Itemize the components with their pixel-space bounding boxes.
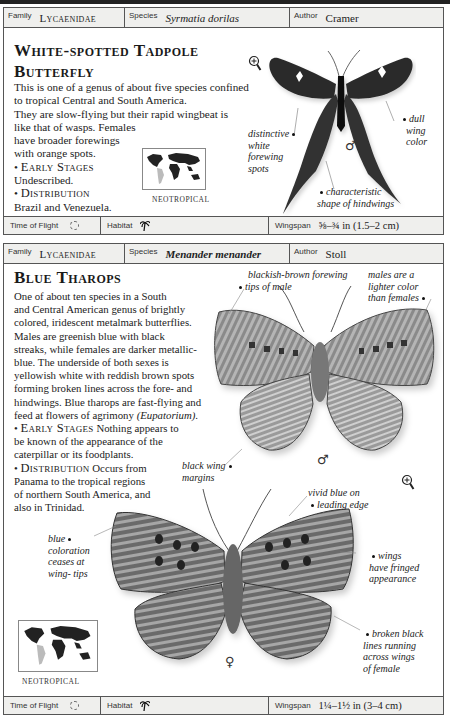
- entry-header: Family Lycaenidae Species Syrmatia doril…: [4, 8, 443, 28]
- author-value: Cramer: [326, 12, 359, 24]
- habitat-cell: Habitat: [101, 697, 269, 714]
- map-region-caption: NEOTROPICAL: [22, 677, 80, 686]
- world-map-icon: [19, 621, 97, 671]
- annotation-hindwings: characteristic shape of hindwings: [317, 186, 394, 209]
- top-rule: [0, 0, 450, 4]
- desc-line: with orange spots.: [14, 147, 244, 160]
- wingspan-label: Wingspan: [275, 701, 311, 710]
- magnify-icon[interactable]: [248, 55, 262, 73]
- time-of-flight-cell: Time of Flight: [4, 217, 101, 234]
- entry-footer: Time of Flight Habitat Wingspan ⅝–¾ in (…: [4, 216, 443, 234]
- author-label: Author: [294, 11, 318, 20]
- palm-tree-icon: [140, 700, 150, 711]
- family-value: Lycaenidae: [40, 12, 96, 24]
- wingspan-cell: Wingspan ⅝–¾ in (1.5–2 cm): [269, 217, 443, 234]
- desc-line: to tropical Central and South America.: [14, 94, 244, 107]
- habitat-label: Habitat: [107, 701, 132, 710]
- leader-dot: [403, 118, 406, 121]
- early-stages-text: Undescribed.: [14, 174, 244, 187]
- author-cell: Author Cramer: [290, 8, 443, 27]
- palm-tree-icon: [140, 220, 150, 231]
- species-label: Species: [129, 11, 157, 20]
- wingspan-value: ⅝–¾ in (1.5–2 cm): [319, 220, 400, 231]
- habitat-label: Habitat: [107, 221, 132, 230]
- time-of-flight-label: Time of Flight: [10, 221, 58, 230]
- species-value: Syrmatia dorilas: [165, 12, 239, 24]
- annotation-wing-color: dull wing color: [400, 113, 427, 148]
- time-of-flight-cell: Time of Flight: [4, 697, 101, 714]
- species-entry-menander-menander: Family Lycaenidae Species Menander menan…: [3, 243, 444, 715]
- wingspan-value: 1¼–1½ in (3–4 cm): [319, 700, 402, 711]
- entry-footer: Time of Flight Habitat Wingspan 1¼–1½ in…: [4, 696, 443, 714]
- desc-line: They are slow-flying but their rapid win…: [14, 108, 244, 121]
- leader-dot: [292, 133, 295, 136]
- map-region-caption: NEOTROPICAL: [152, 195, 210, 204]
- time-of-flight-label: Time of Flight: [10, 701, 58, 710]
- distribution-map: [18, 620, 98, 672]
- desc-line: This is one of a genus of about five spe…: [14, 81, 244, 94]
- sun-icon: [70, 701, 79, 710]
- title-line-2: Butterfly: [14, 61, 198, 82]
- distribution-map: [142, 148, 206, 190]
- early-stages-heading: • Early Stages: [14, 161, 244, 174]
- male-symbol: ♂: [345, 138, 357, 153]
- annotation-forewing-spots: distinctive white forewing spots: [248, 128, 298, 174]
- habitat-cell: Habitat: [101, 217, 269, 234]
- desc-line: like that of wasps. Females: [14, 121, 244, 134]
- wingspan-cell: Wingspan 1¼–1½ in (3–4 cm): [269, 697, 443, 714]
- species-common-name: White-spotted Tadpole Butterfly: [14, 40, 198, 82]
- species-entry-syrmatia-dorilas: Family Lycaenidae Species Syrmatia doril…: [3, 7, 444, 235]
- family-label: Family: [8, 11, 32, 20]
- family-cell: Family Lycaenidae: [4, 8, 125, 27]
- wingspan-label: Wingspan: [275, 221, 311, 230]
- title-line-1: White-spotted Tadpole: [14, 40, 198, 61]
- leader-dot: [320, 191, 323, 194]
- world-map-icon: [143, 149, 205, 189]
- species-cell: Species Syrmatia dorilas: [125, 8, 290, 27]
- sun-icon: [70, 221, 79, 230]
- desc-line: have broader forewings: [14, 134, 244, 147]
